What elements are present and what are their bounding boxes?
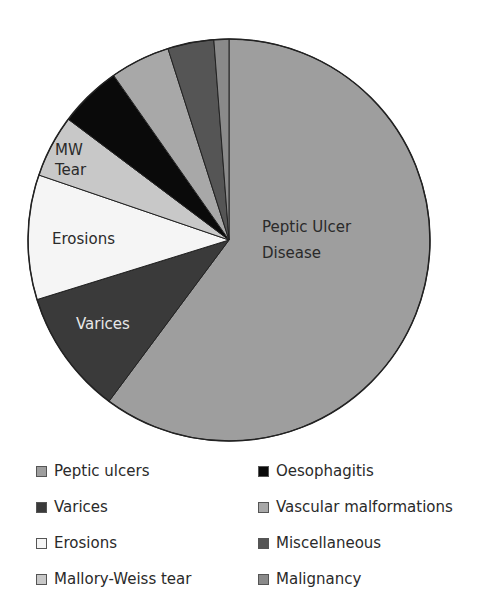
legend-label: Mallory-Weiss tear — [54, 570, 191, 588]
legend-swatch — [36, 538, 47, 549]
legend-item-varices: Varices — [36, 498, 108, 516]
legend-item-mallory-weiss-tear: Mallory-Weiss tear — [36, 570, 191, 588]
legend-label: Oesophagitis — [276, 462, 374, 480]
legend-item-oesophagitis: Oesophagitis — [258, 462, 374, 480]
legend-label: Malignancy — [276, 570, 361, 588]
legend-swatch — [258, 538, 269, 549]
legend-label: Peptic ulcers — [54, 462, 149, 480]
legend-label: Vascular malformations — [276, 498, 453, 516]
legend-item-malignancy: Malignancy — [258, 570, 361, 588]
pie-chart: Peptic UlcerDiseaseVaricesErosionsMWTear — [0, 0, 492, 460]
legend-swatch — [258, 466, 269, 477]
legend-item-erosions: Erosions — [36, 534, 117, 552]
legend-item-miscellaneous: Miscellaneous — [258, 534, 381, 552]
slice-label-erosions: Erosions — [52, 230, 115, 248]
legend-item-peptic-ulcers: Peptic ulcers — [36, 462, 149, 480]
legend-swatch — [258, 574, 269, 585]
legend-label: Erosions — [54, 534, 117, 552]
slice-label-varices: Varices — [76, 315, 130, 333]
legend-swatch — [36, 466, 47, 477]
legend-label: Miscellaneous — [276, 534, 381, 552]
legend-label: Varices — [54, 498, 108, 516]
legend-swatch — [258, 502, 269, 513]
legend-item-vascular-malformations: Vascular malformations — [258, 498, 453, 516]
legend-swatch — [36, 502, 47, 513]
legend-swatch — [36, 574, 47, 585]
